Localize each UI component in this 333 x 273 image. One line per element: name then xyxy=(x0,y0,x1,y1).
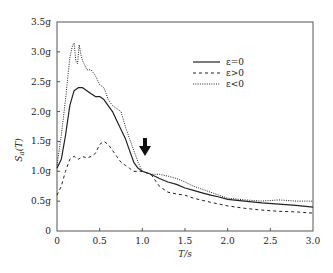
y-tick-label: 2.5g xyxy=(31,77,51,87)
y-tick-label: 1.5g xyxy=(31,136,51,146)
x-tick-label: 1.0 xyxy=(135,236,150,246)
y-axis-title-tail: (T) xyxy=(14,138,24,152)
series-line-dotted xyxy=(57,43,313,201)
y-axis-title: Sa(T) xyxy=(14,138,26,162)
series-line-dashed xyxy=(57,141,313,213)
y-tick-label: 3.0g xyxy=(31,47,51,57)
x-tick-label: 2.5 xyxy=(263,236,278,246)
y-tick-label: 0 xyxy=(45,226,51,236)
x-tick-label: 0.5 xyxy=(93,236,108,246)
x-tick-label: 1.5 xyxy=(178,236,193,246)
response-spectrum-chart: 00.5g1.0g1.5g2.0g2.5g3.0g3.5g 00.51.01.5… xyxy=(0,0,333,273)
x-tick-label: 2.0 xyxy=(221,236,236,246)
x-tick-label: 0 xyxy=(54,236,60,246)
legend-label-eps-negative: ε<0 xyxy=(226,79,244,89)
legend-label-eps-positive: ε>0 xyxy=(226,68,244,78)
y-axis-ticks: 00.5g1.0g1.5g2.0g2.5g3.0g3.5g xyxy=(31,17,60,236)
arrow-down-icon xyxy=(139,138,151,156)
y-tick-label: 0.5g xyxy=(31,196,51,206)
y-tick-label: 2.0g xyxy=(31,107,51,117)
x-tick-label: 3.0 xyxy=(306,236,321,246)
x-axis-title: T/s xyxy=(178,249,192,259)
data-series xyxy=(57,43,313,213)
series-line-solid xyxy=(57,88,313,207)
legend: ε=0 ε>0 ε<0 xyxy=(193,57,244,89)
plot-frame xyxy=(57,22,313,231)
legend-label-eps-zero: ε=0 xyxy=(226,57,244,67)
y-tick-label: 3.5g xyxy=(31,17,51,27)
y-tick-label: 1.0g xyxy=(31,166,51,176)
